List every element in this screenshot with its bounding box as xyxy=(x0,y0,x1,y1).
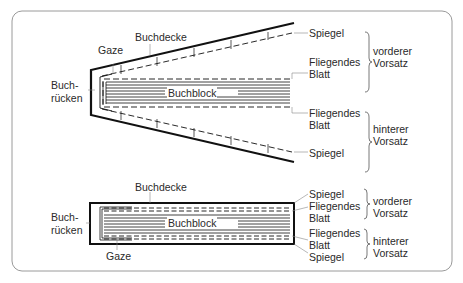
label-buchruecken-1: Buch- xyxy=(51,79,78,91)
label-vorderer-2: Vorsatz xyxy=(373,57,408,69)
label-closed-vorderer-1: vorderer xyxy=(373,195,412,207)
label-closed-fliegendes-front-2: Blatt xyxy=(309,212,330,224)
label-closed-spiegel-front: Spiegel xyxy=(309,188,344,200)
label-closed-spiegel-back: Spiegel xyxy=(309,251,344,263)
open-braces xyxy=(365,32,372,172)
label-closed-buchruecken-2: rücken xyxy=(51,224,83,236)
front-pastedown xyxy=(102,33,292,76)
label-fliegendes-front-1: Fliegendes xyxy=(309,56,360,68)
label-closed-fliegendes-back-2: Blatt xyxy=(309,239,330,251)
label-closed-hinterer-2: Vorsatz xyxy=(373,247,408,259)
label-closed-hinterer-1: hinterer xyxy=(373,235,409,247)
label-vorderer-1: vorderer xyxy=(373,45,412,57)
closed-gaze xyxy=(100,207,132,240)
back-pastedown xyxy=(102,109,292,152)
label-hinterer-2: Vorsatz xyxy=(373,135,408,147)
label-buchruecken-2: rücken xyxy=(51,92,83,104)
label-closed-buchruecken-1: Buch- xyxy=(51,211,78,223)
label-closed-fliegendes-back-1: Fliegendes xyxy=(309,227,360,239)
label-fliegendes-back-1: Fliegendes xyxy=(309,107,360,119)
label-closed-buchdecke: Buchdecke xyxy=(135,181,187,193)
label-spiegel-front: Spiegel xyxy=(309,27,344,39)
label-closed-gaze: Gaze xyxy=(106,250,131,262)
closed-gaze-inner xyxy=(102,209,132,238)
closed-braces xyxy=(364,189,370,259)
label-spiegel-back: Spiegel xyxy=(309,147,344,159)
label-buchdecke: Buchdecke xyxy=(135,31,187,43)
label-fliegendes-front-2: Blatt xyxy=(309,68,330,80)
label-closed-vorderer-2: Vorsatz xyxy=(373,207,408,219)
label-gaze: Gaze xyxy=(98,44,123,56)
label-closed-buchblock: Buchblock xyxy=(167,217,217,229)
label-fliegendes-back-2: Blatt xyxy=(309,119,330,131)
label-hinterer-1: hinterer xyxy=(373,123,409,135)
label-buchblock: Buchblock xyxy=(167,87,217,99)
label-closed-fliegendes-front-1: Fliegendes xyxy=(309,200,360,212)
